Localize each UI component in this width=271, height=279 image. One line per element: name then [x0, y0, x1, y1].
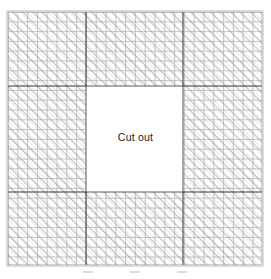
fem-mesh-figure [0, 0, 271, 279]
figure-canvas: Cut out [0, 0, 271, 279]
cutout-region [86, 86, 183, 192]
